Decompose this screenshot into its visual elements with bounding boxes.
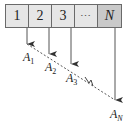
label-a3: A3 — [66, 72, 77, 87]
label-a2: A2 — [45, 61, 56, 76]
label-a1: A1 — [23, 51, 34, 66]
arrows-layer — [0, 0, 125, 127]
label-an: AN — [110, 108, 123, 123]
